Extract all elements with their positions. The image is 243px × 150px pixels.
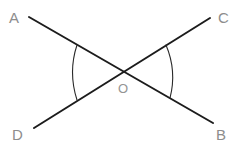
point-label-b: B <box>216 127 226 142</box>
point-label-a: A <box>9 10 19 25</box>
geometry-figure: A C D B O <box>0 0 243 150</box>
figure-canvas <box>0 0 243 150</box>
point-label-c: C <box>218 10 229 25</box>
point-label-o: O <box>118 82 128 95</box>
point-label-d: D <box>12 127 23 142</box>
angle-arc-cob <box>166 45 173 98</box>
angle-arc-aod <box>73 45 78 100</box>
